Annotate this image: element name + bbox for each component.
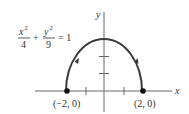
svg-text:x: x: [18, 26, 24, 37]
svg-text:4: 4: [21, 39, 26, 50]
svg-text:2: 2: [50, 24, 53, 31]
svg-text:9: 9: [46, 39, 51, 50]
point-label-right: (2, 0): [134, 98, 156, 110]
ellipse-equation: x 2 4 + y 2 9 = 1: [18, 24, 71, 50]
y-axis-label: y: [95, 9, 101, 20]
svg-text:y: y: [43, 26, 49, 37]
x-axis-label: x: [174, 85, 180, 96]
point-left: [64, 88, 70, 94]
point-label-left: (−2, 0): [53, 98, 80, 110]
svg-text:2: 2: [25, 24, 28, 31]
point-right: [140, 88, 146, 94]
svg-text:= 1: = 1: [58, 32, 71, 43]
ellipse-diagram: y x (−2, 0) (2, 0) x 2 4 + y 2 9 = 1: [0, 0, 189, 114]
svg-text:+: +: [33, 32, 39, 43]
